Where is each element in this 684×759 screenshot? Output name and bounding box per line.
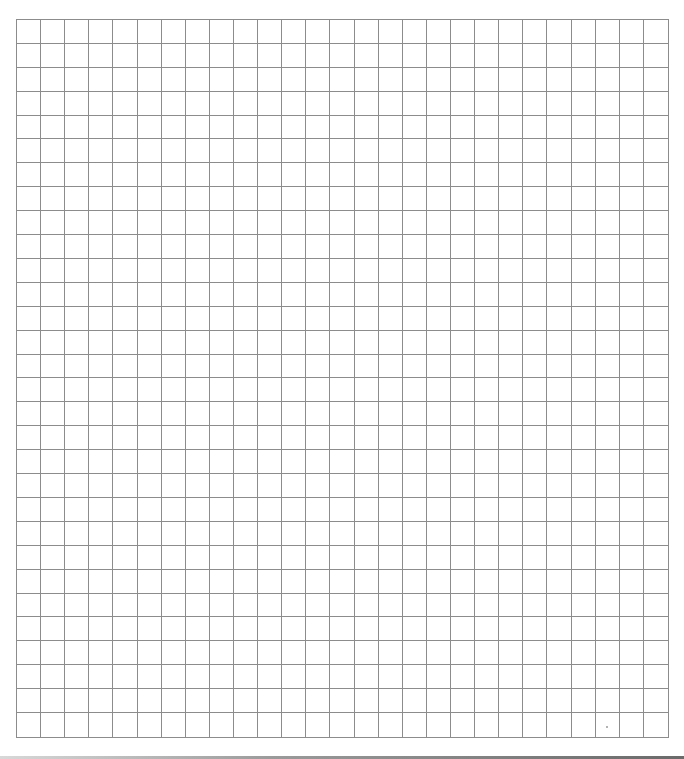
grid-cell (258, 546, 282, 570)
grid-cell (355, 116, 379, 140)
grid-cell (41, 235, 65, 259)
grid-cell (644, 139, 668, 163)
grid-cell (138, 331, 162, 355)
grid-cell (596, 498, 620, 522)
grid-cell (138, 713, 162, 737)
grid-cell (330, 402, 354, 426)
grid-cell (282, 44, 306, 68)
grid-cell (403, 665, 427, 689)
grid-cell (282, 187, 306, 211)
grid-cell (572, 426, 596, 450)
grid-cell (427, 92, 451, 116)
grid-cell (620, 641, 644, 665)
grid-cell (17, 235, 41, 259)
grid-cell (620, 402, 644, 426)
grid-cell (306, 20, 330, 44)
grid-cell (113, 20, 137, 44)
grid-cell (644, 331, 668, 355)
grid-cell (330, 259, 354, 283)
grid-cell (138, 474, 162, 498)
grid-cell (41, 139, 65, 163)
grid-cell (451, 713, 475, 737)
grid-cell (451, 689, 475, 713)
grid-cell (499, 211, 523, 235)
grid-cell (596, 641, 620, 665)
grid-cell (162, 617, 186, 641)
grid-cell (451, 68, 475, 92)
grid-cell (186, 44, 210, 68)
grid-cell (17, 331, 41, 355)
grid-cell (17, 92, 41, 116)
grid-cell (113, 402, 137, 426)
grid-cell (596, 594, 620, 618)
grid-cell (547, 355, 571, 379)
grid-cell (162, 498, 186, 522)
grid-cell (547, 331, 571, 355)
grid-cell (403, 283, 427, 307)
grid-cell (17, 20, 41, 44)
grid-cell (89, 331, 113, 355)
grid-cell (547, 689, 571, 713)
grid-cell (596, 378, 620, 402)
grid-cell (523, 44, 547, 68)
grid-cell (596, 426, 620, 450)
grid-cell (475, 689, 499, 713)
grid-cell (306, 187, 330, 211)
grid-cell (138, 355, 162, 379)
grid-cell (427, 20, 451, 44)
grid-cell (499, 617, 523, 641)
grid-cell (186, 331, 210, 355)
grid-cell (355, 307, 379, 331)
grid-cell (17, 474, 41, 498)
grid-cell (41, 426, 65, 450)
grid-cell (17, 355, 41, 379)
grid-cell (65, 546, 89, 570)
grid-cell (41, 450, 65, 474)
grid-cell (234, 307, 258, 331)
grid-cell (17, 522, 41, 546)
grid-cell (330, 20, 354, 44)
grid-cell (330, 331, 354, 355)
grid-cell (186, 139, 210, 163)
grid-cell (475, 522, 499, 546)
grid-cell (475, 378, 499, 402)
grid-cell (113, 163, 137, 187)
grid-cell (355, 594, 379, 618)
grid-cell (306, 355, 330, 379)
grid-cell (162, 546, 186, 570)
grid-cell (403, 546, 427, 570)
grid-cell (162, 641, 186, 665)
grid-cell (162, 235, 186, 259)
grid-cell (547, 235, 571, 259)
grid-cell (451, 522, 475, 546)
grid-cell (644, 665, 668, 689)
grid-cell (475, 68, 499, 92)
grid-cell (499, 116, 523, 140)
grid-cell (89, 68, 113, 92)
grid-cell (403, 187, 427, 211)
grid-cell (427, 474, 451, 498)
grid-cell (138, 20, 162, 44)
grid-cell (89, 498, 113, 522)
grid-cell (355, 20, 379, 44)
grid-cell (306, 689, 330, 713)
grid-cell (186, 474, 210, 498)
grid-cell (355, 92, 379, 116)
grid-cell (475, 474, 499, 498)
grid-cell (547, 450, 571, 474)
grid-cell (403, 498, 427, 522)
grid-cell (186, 187, 210, 211)
grid-cell (644, 355, 668, 379)
grid-cell (427, 163, 451, 187)
grid-cell (547, 211, 571, 235)
grid-cell (620, 307, 644, 331)
grid-cell (572, 163, 596, 187)
grid-cell (282, 474, 306, 498)
grid-cell (403, 570, 427, 594)
grid-cell (499, 163, 523, 187)
grid-cell (644, 283, 668, 307)
grid-cell (403, 139, 427, 163)
grid-cell (89, 474, 113, 498)
grid-cell (210, 283, 234, 307)
grid-cell (379, 402, 403, 426)
